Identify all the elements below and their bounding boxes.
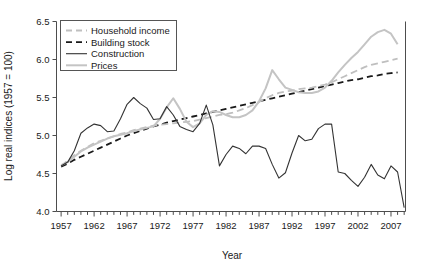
y-tick-label: 5.5 — [36, 92, 49, 103]
y-axis-tick-labels: 4.04.55.05.56.06.5 — [36, 16, 49, 217]
x-tick-label: 1977 — [182, 220, 203, 231]
legend-label: Building stock — [91, 37, 150, 48]
y-axis-title: Log real indices (1957 = 100) — [3, 51, 14, 181]
legend-label: Construction — [91, 48, 144, 59]
chart-figure: 4.04.55.05.56.06.5 195719621967197219771… — [0, 0, 421, 266]
x-tick-label: 1972 — [150, 220, 171, 231]
chart-legend: Household incomeBuilding stockConstructi… — [61, 21, 177, 71]
legend-label: Prices — [91, 60, 118, 71]
y-tick-label: 5.0 — [36, 130, 49, 141]
x-tick-label: 1982 — [215, 220, 236, 231]
y-tick-label: 4.5 — [36, 168, 49, 179]
y-tick-label: 4.0 — [36, 206, 49, 217]
x-tick-label: 1987 — [248, 220, 269, 231]
x-tick-label: 1957 — [51, 220, 72, 231]
series-line-construction — [61, 98, 404, 208]
x-tick-label: 1962 — [84, 220, 105, 231]
y-tick-label: 6.0 — [36, 54, 49, 65]
y-tick-label: 6.5 — [36, 16, 49, 27]
x-tick-label: 2007 — [380, 220, 401, 231]
line-chart-canvas: 4.04.55.05.56.06.5 195719621967197219771… — [0, 0, 421, 266]
x-tick-label: 1997 — [314, 220, 335, 231]
legend-label: Household income — [91, 25, 170, 36]
x-axis-minor-tickmarks — [68, 212, 404, 215]
x-tick-label: 2002 — [347, 220, 368, 231]
x-axis-title: Year — [222, 250, 243, 261]
series-line-building-stock — [61, 72, 397, 166]
y-axis-tickmarks — [53, 22, 57, 212]
x-tick-label: 1992 — [281, 220, 302, 231]
x-axis-tick-labels: 1957196219671972197719821987199219972002… — [51, 220, 402, 231]
x-tick-label: 1967 — [117, 220, 138, 231]
x-axis-major-tickmarks — [61, 212, 391, 217]
